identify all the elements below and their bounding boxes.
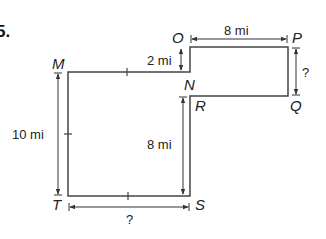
dimension-label-pq: ? [302,65,309,80]
vertex-label-n: N [184,76,195,93]
dimension-pq [292,48,300,95]
vertex-label-t: T [52,196,63,213]
vertex-label-o: O [172,29,184,46]
vertex-label-m: M [52,55,65,72]
dimension-label-ts: ? [126,212,133,227]
dimension-rs [179,97,187,194]
vertex-label-q: Q [290,97,302,114]
dimension-label-op: 8 mi [224,23,249,38]
dimension-label-mt: 10 mi [12,127,44,142]
problem-number: 5. [0,22,10,41]
dimension-label-rs: 8 mi [147,137,172,152]
figure-outline [68,47,288,196]
vertex-label-r: R [195,97,206,114]
dimension-mt [54,73,62,195]
dimension-ts [69,203,189,211]
floor-plan-diagram: 5. O P M N R Q S T 8 mi 2 mi ? 10 mi 8 m… [0,0,326,239]
vertex-label-s: S [195,196,205,213]
dimension-label-on: 2 mi [147,53,172,68]
vertex-label-p: P [292,29,302,46]
